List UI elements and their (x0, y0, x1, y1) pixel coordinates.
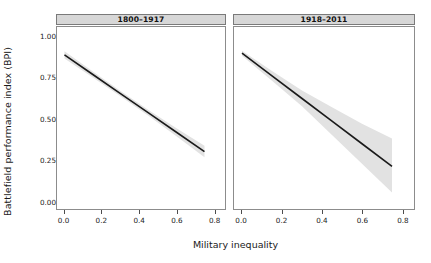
y-tick-label: 0.00 (34, 197, 56, 206)
x-tick-mark (64, 210, 65, 214)
confidence-band (242, 51, 392, 193)
panel-strip-label-2: 1918–2011 (301, 15, 348, 24)
x-tick-label: 0.8 (392, 216, 414, 225)
x-tick-label: 0.0 (230, 216, 252, 225)
y-tick-label: 0.50 (34, 114, 56, 123)
facet-panel-1800-1917: 1800–1917 (56, 14, 226, 210)
x-tick-label: 0.8 (204, 216, 226, 225)
plot-svg-2 (234, 27, 414, 209)
y-tick-label: 0.75 (34, 73, 56, 82)
plot-svg-1 (57, 27, 225, 209)
x-tick-label: 0.2 (90, 216, 112, 225)
x-tick-label: 0.6 (166, 216, 188, 225)
x-tick-mark (403, 210, 404, 214)
x-tick-mark (215, 210, 216, 214)
panel-strip-header-2: 1918–2011 (233, 14, 415, 25)
plot-area-1 (56, 26, 226, 210)
regression-line (242, 53, 392, 166)
panel-strip-label-1: 1800–1917 (118, 15, 165, 24)
x-tick-label: 0.2 (271, 216, 293, 225)
y-axis-title: Battlefield performance index (BPI) (0, 0, 14, 263)
y-tick-label: 0.25 (34, 156, 56, 165)
x-tick-mark (241, 210, 242, 214)
x-tick-mark (362, 210, 363, 214)
x-tick-label: 0.4 (128, 216, 150, 225)
plot-area-2 (233, 26, 415, 210)
y-tick-label: 1.00 (34, 31, 56, 40)
x-tick-mark (322, 210, 323, 214)
x-tick-label: 0.6 (351, 216, 373, 225)
x-tick-label: 0.0 (53, 216, 75, 225)
facet-panel-1918-2011: 1918–2011 (233, 14, 415, 210)
regression-line (64, 55, 204, 152)
confidence-band (64, 51, 204, 157)
x-tick-mark (282, 210, 283, 214)
x-tick-label: 0.4 (311, 216, 333, 225)
x-tick-mark (177, 210, 178, 214)
x-tick-mark (101, 210, 102, 214)
x-axis-panel-1: 0.00.20.40.60.8 (56, 210, 226, 232)
x-tick-mark (139, 210, 140, 214)
x-axis-panel-2: 0.00.20.40.60.8 (233, 210, 415, 232)
x-axis-title: Military inequality (56, 239, 415, 250)
panel-strip-header-1: 1800–1917 (56, 14, 226, 25)
chart-figure: Battlefield performance index (BPI) 0.00… (0, 0, 431, 263)
